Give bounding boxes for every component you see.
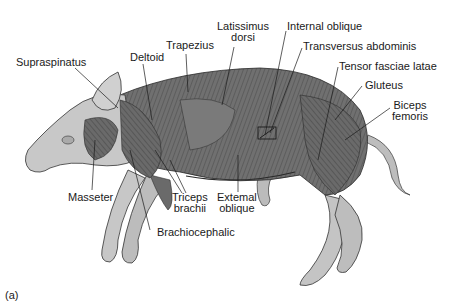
tail (366, 135, 410, 195)
head (25, 94, 135, 172)
label-tensor-fasciae-latae: Tensor fasciae latae (339, 61, 437, 72)
label-biceps-femoris: Biceps femoris (392, 100, 428, 122)
label-brachiocephalic: Brachiocephalic (157, 227, 235, 238)
label-triceps-brachii: Triceps brachii (172, 192, 208, 214)
front-legs (102, 170, 172, 263)
label-transversus-abdominis: Transversus abdominis (303, 41, 416, 52)
label-supraspinatus: Supraspinatus (16, 57, 86, 68)
eye (62, 136, 74, 144)
label-trapezius: Trapezius (166, 40, 214, 51)
label-masseter: Masseter (68, 192, 113, 203)
label-external-oblique: Extemal oblique (217, 192, 257, 214)
hind-legs (300, 195, 362, 286)
label-latissimus-dorsi: Latissimus dorsi (217, 21, 269, 43)
label-deltoid: Deltoid (130, 52, 164, 63)
label-gluteus: Gluteus (365, 80, 403, 91)
label-internal-oblique: Internal oblique (287, 21, 362, 32)
panel-label: (a) (5, 290, 18, 301)
ear (92, 72, 121, 110)
